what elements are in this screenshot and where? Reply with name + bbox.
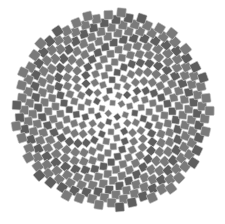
seed [113,134,120,141]
seed [163,119,172,128]
seed [11,121,22,132]
seed [205,106,214,115]
seed [123,119,131,127]
seed [91,69,100,78]
seed [90,78,99,87]
seed [156,129,166,139]
seed [118,100,126,108]
seed [97,121,105,129]
phyllotaxis-image: Sunflower seed head phyllotaxis pattern … [0,0,225,224]
seed [160,111,168,119]
seed [131,95,139,103]
sunflower-seed-spiral [0,0,225,224]
seed [78,129,87,138]
seed [94,112,102,120]
seed [70,119,79,128]
seed [123,91,132,100]
seed [109,77,115,83]
seed [79,148,89,158]
seed [107,50,115,58]
seed [123,82,132,91]
seed [189,61,201,73]
seed [62,72,72,82]
seed [51,25,64,38]
seed [104,10,113,19]
seed [200,126,211,137]
seed [88,156,98,166]
seed [126,103,133,110]
seed [108,129,114,135]
seed [78,121,87,130]
seed [56,91,65,100]
seed [87,127,96,136]
seed [115,202,125,212]
seed [81,70,91,80]
seed [94,200,104,210]
seed [154,121,163,130]
seed [60,99,68,107]
seed [110,143,117,150]
seed [120,63,129,72]
seed [82,11,93,22]
seed [99,105,105,111]
seed [143,67,153,77]
seed [131,78,140,87]
seed [120,137,129,146]
seed [51,103,59,111]
seed [147,137,157,147]
seed [93,88,102,97]
seed [128,128,137,137]
seed [146,192,158,204]
seed [73,138,83,148]
seed [122,111,129,118]
seed [102,94,110,102]
seed [116,8,126,18]
seed [93,97,101,105]
seed [81,79,90,88]
seed [99,162,108,171]
seed [84,98,92,106]
seed [71,74,81,84]
seed [179,43,192,56]
seed [81,138,91,148]
seed [78,104,85,111]
seed [129,137,138,146]
seed [126,50,136,60]
seed [110,100,116,106]
seed [70,128,80,138]
seed [106,87,113,94]
seed [132,86,141,95]
seed [63,81,73,91]
seed [104,110,112,118]
seed [101,72,109,80]
seed [73,83,83,93]
seed [98,130,106,138]
seed [111,58,119,66]
seed [164,182,177,195]
seed [16,132,27,143]
seed [71,17,83,29]
seed [141,96,149,104]
seed [197,72,209,84]
seed [118,53,127,62]
seed [146,145,157,156]
seed [115,92,123,100]
seed [56,110,64,118]
seed [105,118,112,125]
seed [99,81,107,89]
seed [146,108,153,115]
seed [22,151,34,163]
seed [88,146,97,155]
seed [103,138,111,146]
seed [33,169,46,182]
seed [156,105,163,112]
seed [127,145,136,154]
seed [82,113,90,121]
seed [138,104,145,111]
seed [88,119,97,128]
seed [96,153,105,162]
seed [88,108,94,114]
seed [132,118,141,127]
seed [151,114,159,122]
seed [72,66,82,76]
